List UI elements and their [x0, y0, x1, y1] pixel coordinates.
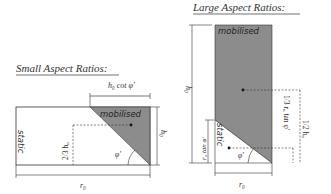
small-width-label: r₀	[80, 181, 86, 190]
large-wedge-height-label: r₀ tan φ'	[200, 137, 208, 160]
large-mobilised-centroid-label: 1/2 h₀	[301, 120, 310, 138]
large-height-label: h₀	[184, 86, 193, 93]
small-centroid-height-label: 2/3 h₀	[61, 142, 70, 160]
small-top-dimension-label: h₀ cot φ'	[108, 81, 135, 90]
small-angle-arc	[128, 150, 135, 165]
large-static-label: static	[215, 123, 225, 147]
aspect-ratio-diagram: Small Aspect Ratios: h₀ cot φ' mobilised…	[0, 0, 331, 194]
small-aspect-panel: Small Aspect Ratios: h₀ cot φ' mobilised…	[16, 62, 168, 190]
small-mobilised-label: mobilised	[100, 109, 142, 119]
small-panel-title: Small Aspect Ratios:	[16, 62, 107, 74]
large-width-label: r₀	[239, 180, 245, 189]
small-angle-label: φ'	[115, 150, 121, 159]
small-static-label: static	[16, 130, 26, 154]
large-aspect-panel: Large Aspect Ratios: mobilised static h₀…	[184, 1, 310, 189]
large-static-centroid-label: 1/3 r₀ tan φ'	[282, 95, 291, 131]
large-angle-label: φ'	[238, 151, 244, 160]
large-panel-title: Large Aspect Ratios:	[192, 1, 285, 13]
small-height-label: h₀	[159, 130, 168, 137]
large-mobilised-label: mobilised	[218, 26, 260, 36]
